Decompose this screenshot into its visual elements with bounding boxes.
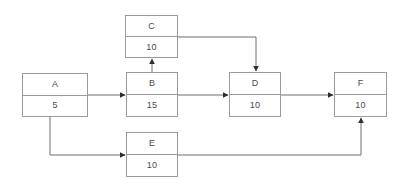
node-e-label: E [127, 133, 177, 155]
node-e-duration: 10 [127, 155, 177, 176]
node-c-duration: 10 [126, 37, 177, 57]
node-f-duration: 10 [335, 95, 386, 116]
edge-e-to-f [178, 118, 361, 155]
edge-a-to-e [50, 117, 125, 155]
edge-c-to-d [178, 37, 256, 71]
node-d-duration: 10 [230, 95, 280, 116]
network-diagram: A 5 B 15 C 10 D 10 E 10 F 10 [0, 0, 408, 189]
node-a[interactable]: A 5 [22, 73, 88, 117]
node-d[interactable]: D 10 [229, 72, 281, 117]
node-b[interactable]: B 15 [126, 72, 178, 117]
node-c-label: C [126, 16, 177, 37]
node-b-label: B [127, 73, 177, 95]
node-d-label: D [230, 73, 280, 95]
node-f[interactable]: F 10 [334, 72, 387, 117]
node-f-label: F [335, 73, 386, 95]
node-c[interactable]: C 10 [125, 15, 178, 58]
node-a-duration: 5 [23, 96, 87, 117]
node-e[interactable]: E 10 [126, 132, 178, 177]
node-b-duration: 15 [127, 95, 177, 116]
node-a-label: A [23, 74, 87, 96]
